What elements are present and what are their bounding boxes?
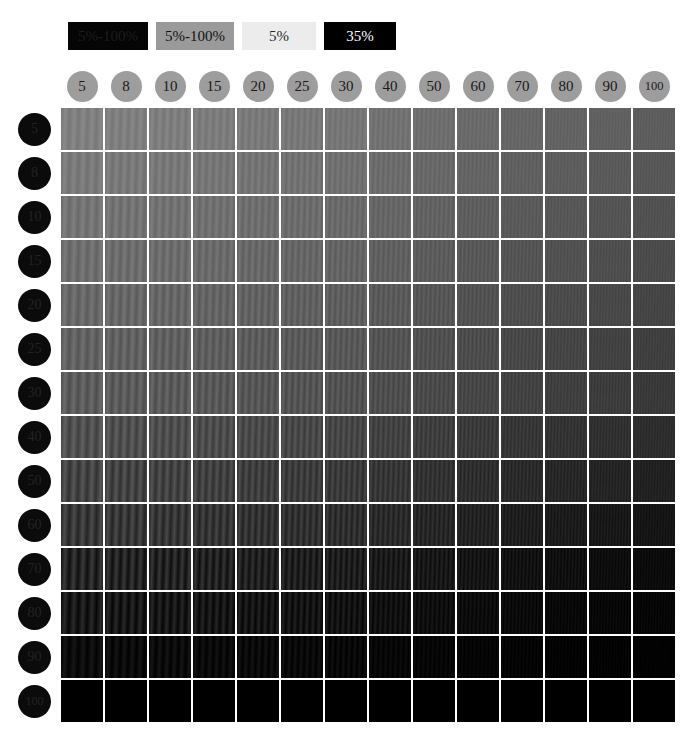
sinusoidal-grating xyxy=(633,636,675,678)
grating-cell xyxy=(589,152,631,194)
sinusoidal-grating xyxy=(325,680,367,722)
grating-cell xyxy=(193,416,235,458)
sinusoidal-grating xyxy=(633,196,675,238)
row-header-label: 25 xyxy=(18,333,51,366)
grating-cell xyxy=(457,636,499,678)
matrix-row xyxy=(61,328,677,372)
grating-cell xyxy=(589,680,631,722)
grating-cell xyxy=(237,152,279,194)
legend-item-3-label: 35% xyxy=(346,28,374,45)
legend-item-0: 5%-100% xyxy=(68,22,148,50)
grating-cell xyxy=(281,504,323,546)
sinusoidal-grating xyxy=(457,240,499,282)
grating-cell xyxy=(501,504,543,546)
sinusoidal-grating xyxy=(457,196,499,238)
grating-cell xyxy=(193,548,235,590)
grating-cell xyxy=(149,636,191,678)
grating-cell xyxy=(633,416,675,458)
grating-cell xyxy=(193,592,235,634)
column-header-90: 90 xyxy=(589,70,631,102)
sinusoidal-grating xyxy=(237,108,279,150)
grating-cell xyxy=(545,108,587,150)
grating-cell xyxy=(281,680,323,722)
grating-cell xyxy=(149,680,191,722)
sinusoidal-grating xyxy=(105,240,147,282)
grating-cell xyxy=(237,592,279,634)
row-header-label: 50 xyxy=(18,465,51,498)
grating-cell xyxy=(589,416,631,458)
sinusoidal-grating xyxy=(589,416,631,458)
row-header-label: 15 xyxy=(18,245,51,278)
sinusoidal-grating xyxy=(149,592,191,634)
grating-cell xyxy=(325,284,367,326)
sinusoidal-grating xyxy=(589,592,631,634)
sinusoidal-grating xyxy=(501,108,543,150)
grating-cell xyxy=(633,108,675,150)
column-header-100: 100 xyxy=(633,70,675,102)
sinusoidal-grating xyxy=(457,108,499,150)
grating-cell xyxy=(325,328,367,370)
grating-cell xyxy=(281,416,323,458)
grating-cell xyxy=(369,196,411,238)
grating-cell xyxy=(149,592,191,634)
grating-cell xyxy=(193,636,235,678)
grating-cell xyxy=(105,548,147,590)
sinusoidal-grating xyxy=(149,504,191,546)
grating-cell xyxy=(237,504,279,546)
grating-cell xyxy=(193,108,235,150)
sinusoidal-grating xyxy=(61,108,103,150)
grating-cell xyxy=(501,284,543,326)
sinusoidal-grating xyxy=(237,240,279,282)
sinusoidal-grating xyxy=(545,636,587,678)
grating-cell xyxy=(501,328,543,370)
sinusoidal-grating xyxy=(61,196,103,238)
column-header-10: 10 xyxy=(149,70,191,102)
grating-cell xyxy=(413,108,455,150)
sinusoidal-grating xyxy=(545,328,587,370)
grating-cell xyxy=(589,504,631,546)
grating-matrix xyxy=(61,108,677,724)
grating-cell xyxy=(61,240,103,282)
grating-cell xyxy=(281,196,323,238)
sinusoidal-grating xyxy=(633,416,675,458)
grating-cell xyxy=(105,240,147,282)
sinusoidal-grating xyxy=(589,328,631,370)
grating-cell xyxy=(545,328,587,370)
sinusoidal-grating xyxy=(193,152,235,194)
grating-cell xyxy=(633,548,675,590)
sinusoidal-grating xyxy=(501,460,543,502)
grating-cell xyxy=(369,636,411,678)
sinusoidal-grating xyxy=(325,636,367,678)
row-header-30: 30 xyxy=(18,372,51,414)
grating-cell xyxy=(281,152,323,194)
grating-cell xyxy=(633,328,675,370)
sinusoidal-grating xyxy=(369,592,411,634)
sinusoidal-grating xyxy=(413,196,455,238)
grating-cell xyxy=(545,416,587,458)
sinusoidal-grating xyxy=(281,108,323,150)
column-header-25: 25 xyxy=(281,70,323,102)
sinusoidal-grating xyxy=(413,108,455,150)
grating-cell xyxy=(589,636,631,678)
row-header-25: 25 xyxy=(18,328,51,370)
row-header-20: 20 xyxy=(18,284,51,326)
sinusoidal-grating xyxy=(61,636,103,678)
sinusoidal-grating xyxy=(325,592,367,634)
grating-cell xyxy=(545,460,587,502)
sinusoidal-grating xyxy=(105,416,147,458)
matrix-row xyxy=(61,240,677,284)
sinusoidal-grating xyxy=(457,328,499,370)
legend-item-2-label: 5% xyxy=(269,28,289,45)
grating-cell xyxy=(545,592,587,634)
sinusoidal-grating xyxy=(325,328,367,370)
row-header-label: 5 xyxy=(18,113,51,146)
grating-cell xyxy=(281,240,323,282)
grating-cell xyxy=(457,592,499,634)
row-header-column: 581015202530405060708090100 xyxy=(18,108,51,724)
sinusoidal-grating xyxy=(369,372,411,414)
legend-item-2: 5% xyxy=(242,22,316,50)
grating-cell xyxy=(457,240,499,282)
sinusoidal-grating xyxy=(457,548,499,590)
sinusoidal-grating xyxy=(545,284,587,326)
sinusoidal-grating xyxy=(61,240,103,282)
